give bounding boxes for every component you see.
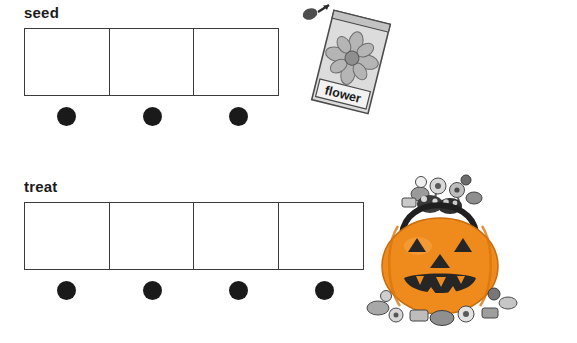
seed-dot-group	[24, 107, 286, 133]
seed-dot	[229, 107, 248, 126]
pumpkin-candy-bucket-illustration	[358, 168, 533, 333]
treat-box[interactable]	[24, 202, 110, 270]
treat-dot	[229, 281, 248, 300]
seed-box[interactable]	[109, 28, 195, 96]
seed-dot	[57, 107, 76, 126]
seed-box[interactable]	[24, 28, 110, 96]
treat-row: treat	[24, 178, 372, 307]
treat-dot	[315, 281, 334, 300]
treat-box[interactable]	[278, 202, 364, 270]
treat-box-group	[24, 202, 372, 270]
treat-box[interactable]	[193, 202, 279, 270]
seed-box[interactable]	[193, 28, 279, 96]
seed-row: seed	[24, 4, 286, 133]
treat-dot-group	[24, 281, 372, 307]
seed-dot	[143, 107, 162, 126]
treat-box[interactable]	[109, 202, 195, 270]
seed-packet-illustration: flower	[296, 2, 406, 122]
treat-dot	[143, 281, 162, 300]
treat-dot	[57, 281, 76, 300]
treat-row-label: treat	[24, 178, 372, 195]
seed-box-group	[24, 28, 286, 96]
seed-row-label: seed	[24, 4, 286, 21]
